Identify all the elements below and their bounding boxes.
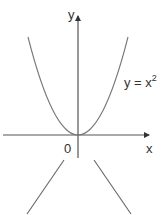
curve-equation: y = x2 (124, 73, 157, 90)
lower-left-line (27, 160, 64, 214)
lower-right-line (94, 160, 131, 214)
diagram-canvas: y x 0 y = x2 (0, 0, 161, 215)
origin-label: 0 (64, 141, 71, 156)
x-axis-label: x (146, 141, 153, 156)
equation-base: y = x (124, 75, 152, 90)
y-axis-label: y (68, 7, 75, 22)
equation-exponent: 2 (152, 73, 157, 83)
